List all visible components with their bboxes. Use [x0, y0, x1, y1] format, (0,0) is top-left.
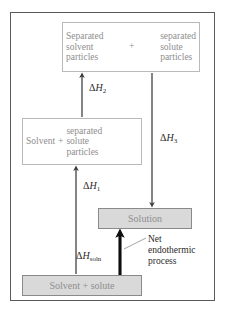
label-delta-h3: ΔH3 — [160, 132, 177, 143]
top-box-left-line-1: Separated — [66, 31, 103, 42]
top-box-right-line-1: separated — [160, 31, 196, 42]
top-box-right-line-2: solute — [160, 42, 196, 53]
state-box-solvent-separated-solute: Solvent + separated solute particles — [22, 118, 142, 165]
label-delta-h1: ΔH1 — [83, 180, 100, 191]
h-symbol-h1: H — [89, 180, 96, 191]
subscript-h1: 1 — [97, 185, 101, 193]
enthalpy-diagram-figure: Separated solvent particles + separated … — [0, 0, 227, 314]
mid-box-plus-sign: + — [55, 136, 66, 147]
annotation-net-endothermic-process: Net endothermic process — [148, 234, 220, 266]
h-symbol-hsoln: H — [82, 250, 89, 261]
solution-box-label: Solution — [128, 213, 162, 224]
bottom-box-label: Solvent + solute — [49, 280, 114, 291]
subscript-hsoln: soln — [90, 255, 102, 263]
top-box-left-line-3: particles — [66, 52, 103, 63]
h-symbol-h3: H — [166, 132, 173, 143]
subscript-h2: 2 — [103, 87, 107, 95]
mid-box-lead-text: Solvent — [26, 136, 55, 147]
h-symbol-h2: H — [95, 82, 102, 93]
top-box-right-line-3: particles — [160, 52, 196, 63]
label-delta-h-soln: ΔHsoln — [76, 250, 101, 261]
mid-box-line-1: separated — [66, 126, 102, 137]
net-caption-line-1: Net — [148, 234, 220, 245]
top-box-left-line-2: solvent — [66, 42, 103, 53]
state-box-solution: Solution — [98, 208, 192, 229]
state-box-solvent-plus-solute: Solvent + solute — [22, 275, 142, 296]
top-box-plus-sign: + — [127, 42, 136, 52]
net-caption-line-3: process — [148, 256, 220, 267]
state-box-separated-particles: Separated solvent particles + separated … — [62, 22, 200, 72]
subscript-h3: 3 — [174, 137, 178, 145]
label-delta-h2: ΔH2 — [89, 82, 106, 93]
mid-box-line-2: solute — [66, 136, 102, 147]
mid-box-line-3: particles — [66, 147, 102, 158]
net-caption-line-2: endothermic — [148, 245, 220, 256]
